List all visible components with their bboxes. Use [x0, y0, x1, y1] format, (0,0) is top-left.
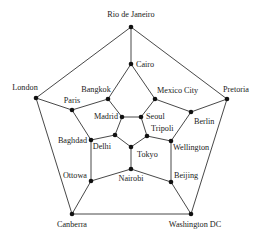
edge-mexico-berlin	[155, 99, 191, 112]
label-bangkok: Bangkok	[81, 85, 111, 94]
node-tokyo	[129, 145, 134, 150]
edge-cairo-bangkok	[108, 64, 131, 99]
label-nairobi: Nairobi	[118, 174, 144, 183]
node-paris	[70, 108, 75, 113]
node-washington	[189, 212, 194, 217]
label-tripoli: Tripoli	[151, 124, 174, 133]
node-delhi	[113, 133, 118, 138]
edge-berlin-wellington	[171, 112, 191, 141]
label-wellington: Wellington	[173, 143, 209, 152]
label-ottowa: Ottowa	[63, 171, 87, 180]
node-mexico	[153, 97, 158, 102]
graph-diagram: Rio de JaneiroCairoLondonPretoriaParisBa…	[0, 0, 262, 240]
label-seoul: Seoul	[146, 112, 165, 121]
label-canberra: Canberra	[57, 220, 87, 229]
label-rio: Rio de Janeiro	[107, 10, 154, 19]
node-tripoli	[145, 134, 150, 139]
edge-delhi-baghdad	[91, 135, 115, 140]
node-canberra	[70, 212, 75, 217]
node-nairobi	[129, 167, 134, 172]
edge-london-canberra	[36, 98, 72, 214]
edge-ottowa-canberra	[72, 181, 91, 214]
label-paris: Paris	[64, 96, 80, 105]
label-tokyo: Tokyo	[137, 150, 158, 159]
label-pretoria: Pretoria	[223, 85, 249, 94]
label-madrid: Madrid	[94, 112, 118, 121]
node-beijing	[169, 180, 174, 185]
edge-tripoli-wellington	[147, 136, 171, 141]
node-ottowa	[89, 179, 94, 184]
graph-svg: Rio de JaneiroCairoLondonPretoriaParisBa…	[0, 0, 262, 240]
label-berlin: Berlin	[194, 117, 214, 126]
label-cairo: Cairo	[136, 60, 154, 69]
label-washington: Washington DC	[169, 220, 222, 229]
edge-tripoli-tokyo	[131, 136, 147, 147]
node-madrid	[120, 115, 125, 120]
edge-delhi-tokyo	[115, 135, 131, 147]
node-pretoria	[225, 97, 230, 102]
edge-cairo-mexico	[131, 64, 155, 99]
node-seoul	[139, 115, 144, 120]
node-bangkok	[106, 97, 111, 102]
node-rio	[129, 25, 134, 30]
node-berlin	[189, 110, 194, 115]
node-cairo	[129, 62, 134, 67]
node-london	[34, 96, 39, 101]
label-mexico: Mexico City	[157, 86, 199, 95]
label-london: London	[12, 83, 37, 92]
label-delhi: Delhi	[93, 142, 112, 151]
edge-beijing-washington	[171, 182, 191, 214]
label-baghdad: Baghdad	[58, 136, 87, 145]
edge-pretoria-berlin	[191, 99, 227, 112]
label-beijing: Beijing	[174, 171, 198, 180]
